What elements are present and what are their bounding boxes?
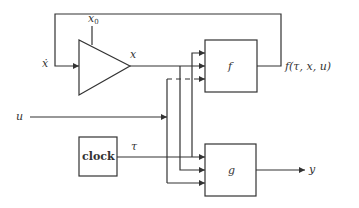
tau-label: τ: [131, 140, 138, 153]
u-label: u: [16, 110, 23, 123]
block-diagram: ẋ x0 x u τ clock f g f(τ, x, u) y: [0, 0, 359, 208]
x-dot-label: ẋ: [42, 57, 49, 70]
y-label: y: [308, 163, 316, 176]
g-label: g: [228, 164, 235, 177]
f-output-label: f(τ, x, u): [284, 60, 331, 73]
x-label: x: [130, 48, 137, 61]
tau-wire-f: [192, 53, 205, 157]
integrator-block: [79, 40, 130, 95]
clock-label: clock: [82, 150, 115, 163]
